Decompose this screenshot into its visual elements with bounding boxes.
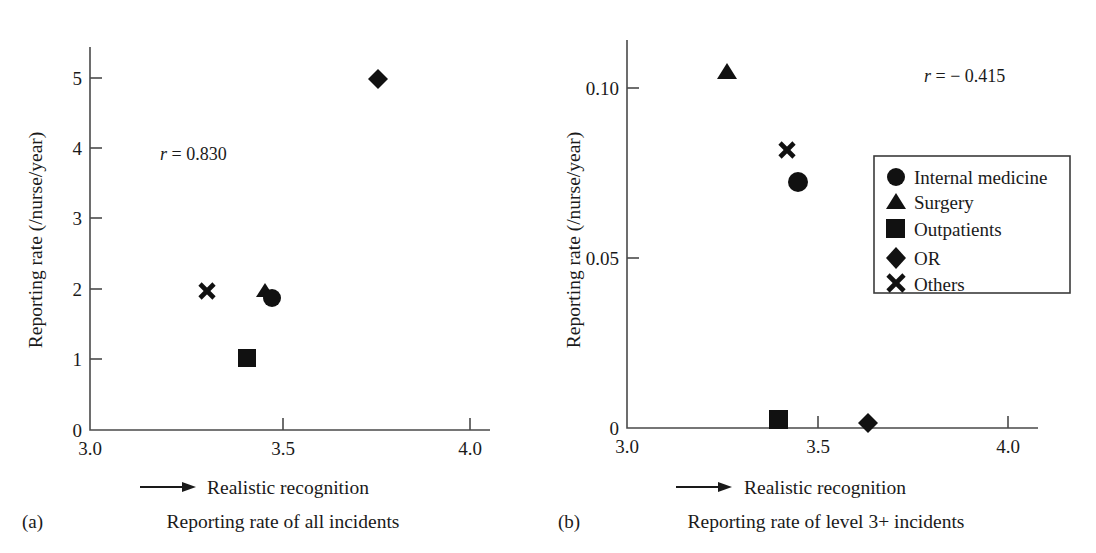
panel-a-point-internal-medicine xyxy=(263,289,281,307)
panel-a-ylabel-5: 5 xyxy=(73,68,83,89)
legend-item-outpatients[interactable]: Outpatients xyxy=(886,219,1002,240)
panel-b-ylabel-010: 0.10 xyxy=(586,78,619,99)
panel-a-label: (a) xyxy=(22,511,43,533)
panel-b: 0.10 0.05 0 3.0 3.5 4.0 Reporting rate (… xyxy=(548,0,1096,553)
panel-a-xlabel-40: 4.0 xyxy=(458,438,482,459)
legend-label-internal-medicine: Internal medicine xyxy=(914,167,1047,188)
panel-a-xaxis-title: Realistic recognition xyxy=(207,477,369,498)
panel-a-xlabel-30: 3.0 xyxy=(78,438,102,459)
square-marker-icon xyxy=(886,219,905,238)
panel-a-correlation-annotation: r = 0.830 xyxy=(160,144,227,164)
panel-b-xaxis-title: Realistic recognition xyxy=(744,477,906,498)
panel-a-point-others xyxy=(200,284,214,298)
panel-b-plot: 0.10 0.05 0 3.0 3.5 4.0 Reporting rate (… xyxy=(548,0,1096,553)
panel-a-ylabel-2: 2 xyxy=(73,279,83,300)
panel-a-plot: 5 4 3 2 1 0 3.0 3.5 4.0 Reporting rate (… xyxy=(0,0,548,553)
panel-a-point-or xyxy=(368,69,388,89)
panel-a-xlabel-35: 3.5 xyxy=(271,438,295,459)
legend-label-or: OR xyxy=(914,248,941,269)
panel-a-ylabel-3: 3 xyxy=(73,208,83,229)
panel-a-point-outpatients xyxy=(238,349,256,367)
panel-a-ylabel-4: 4 xyxy=(73,138,83,159)
panel-b-yaxis-title: Reporting rate (/nurse/year) xyxy=(563,132,585,349)
panel-a-xaxis-arrow xyxy=(140,482,196,492)
panel-b-ylabel-005: 0.05 xyxy=(586,248,619,269)
legend-label-others: Others xyxy=(914,274,965,295)
panel-b-point-others xyxy=(780,143,794,157)
figure-container: 5 4 3 2 1 0 3.0 3.5 4.0 Reporting rate (… xyxy=(0,0,1096,553)
panel-b-point-or xyxy=(858,413,878,433)
circle-marker-icon xyxy=(887,168,905,186)
legend-label-surgery: Surgery xyxy=(914,192,974,213)
panel-b-xlabel-35: 3.5 xyxy=(806,436,830,457)
panel-b-xlabel-30: 3.0 xyxy=(615,436,639,457)
panel-b-xaxis-arrow xyxy=(676,482,732,492)
panel-b-point-surgery xyxy=(717,63,737,79)
panel-b-xlabel-40: 4.0 xyxy=(996,436,1020,457)
legend-label-outpatients: Outpatients xyxy=(914,219,1002,240)
panel-a-caption: Reporting rate of all incidents xyxy=(167,511,400,532)
panel-b-point-internal-medicine xyxy=(788,172,808,192)
panel-b-label: (b) xyxy=(558,511,580,533)
panel-b-point-outpatients xyxy=(769,410,788,429)
panel-a-yaxis-title: Reporting rate (/nurse/year) xyxy=(25,132,47,349)
legend-item-or[interactable]: OR xyxy=(886,247,941,269)
panel-a-ylabel-1: 1 xyxy=(73,349,83,370)
panel-a-axes xyxy=(90,47,490,430)
panel-b-caption: Reporting rate of level 3+ incidents xyxy=(688,511,965,532)
legend[interactable]: Internal medicine Surgery Outpatients OR xyxy=(874,156,1070,295)
panel-b-correlation-annotation: r = − 0.415 xyxy=(924,66,1005,86)
panel-a: 5 4 3 2 1 0 3.0 3.5 4.0 Reporting rate (… xyxy=(0,0,548,553)
